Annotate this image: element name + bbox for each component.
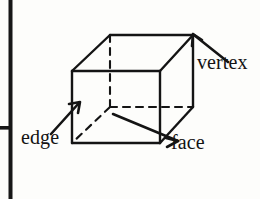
page-border-marks: [0, 0, 13, 199]
label-face: face: [171, 132, 205, 152]
label-vertex: vertex: [197, 52, 248, 72]
left-border-rule: [9, 0, 13, 199]
cube-wireframe-drawing: [0, 0, 260, 199]
cube-diagram-figure: vertex edge face: [0, 0, 260, 199]
left-border-tick: [0, 126, 12, 130]
depth-edge-top-right: [160, 35, 193, 71]
leader-face-line: [113, 114, 178, 141]
depth-edge-top-left: [72, 35, 110, 71]
label-edge: edge: [21, 127, 59, 147]
